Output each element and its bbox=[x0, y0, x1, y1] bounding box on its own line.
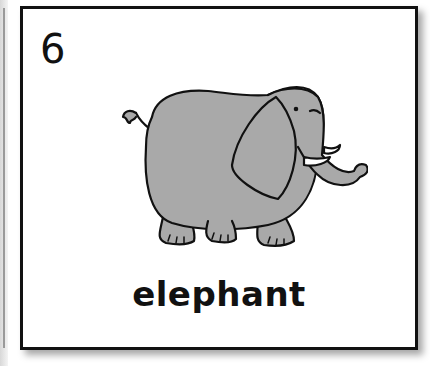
adjacent-card-border bbox=[3, 8, 5, 348]
elephant-illustration-icon bbox=[108, 77, 368, 257]
card-number: 6 bbox=[40, 29, 65, 69]
adjacent-card-edge bbox=[0, 0, 8, 366]
card-word: elephant bbox=[23, 274, 415, 314]
flashcard: 6 elephant bbox=[20, 6, 418, 350]
